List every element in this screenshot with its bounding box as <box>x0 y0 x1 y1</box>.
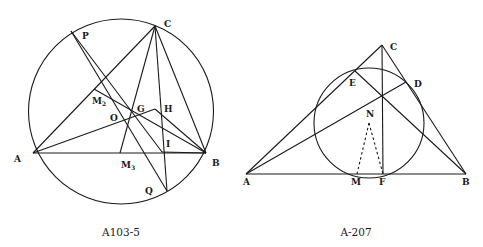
segment-c-f <box>382 45 383 174</box>
point-label-m: M <box>351 177 361 187</box>
point-label-b: B <box>462 177 470 187</box>
point-label-b: B <box>212 158 220 168</box>
segment-c-m3 <box>120 26 155 153</box>
caption-left: A103-5 <box>101 226 140 238</box>
circle <box>29 19 214 204</box>
figure-a-207: ABCEDNMF <box>242 42 470 187</box>
point-label-e: E <box>349 78 356 88</box>
segment-a-c <box>246 45 382 174</box>
segment-b-c <box>382 45 466 174</box>
point-label-c: C <box>164 19 171 29</box>
point-label-q: Q <box>145 186 153 196</box>
point-label-m2: M2 <box>92 96 106 107</box>
point-label-d: D <box>414 79 422 89</box>
point-label-h: H <box>164 104 173 114</box>
point-label-p: P <box>82 31 89 41</box>
dashed-n-f <box>369 123 383 174</box>
point-label-a: A <box>242 177 251 187</box>
segment-a-h <box>33 109 155 153</box>
figure-a103-5: ABCPQM2GHOIM3 <box>13 19 220 204</box>
point-label-f: F <box>379 177 386 187</box>
point-label-g: G <box>137 104 145 114</box>
point-label-n: N <box>366 109 374 119</box>
point-label-i: I <box>166 139 170 149</box>
point-label-a: A <box>13 154 22 164</box>
dashed-n-m <box>357 123 369 174</box>
point-label-m3: M3 <box>121 160 135 171</box>
point-label-o: O <box>110 113 118 123</box>
point-label-c: C <box>390 42 397 52</box>
diagram-canvas: ABCPQM2GHOIM3 ABCEDNMF A103-5 A-207 <box>0 0 483 247</box>
caption-right: A-207 <box>339 226 371 238</box>
segment-p-q <box>71 31 167 191</box>
